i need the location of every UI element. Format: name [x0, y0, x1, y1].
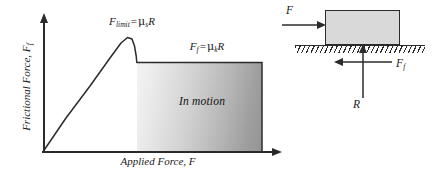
- f-kinetic-equals: =: [199, 40, 207, 52]
- friction-force-label: Ff: [396, 57, 405, 71]
- applied-force-arrowhead: [317, 21, 326, 29]
- friction-force-symbol: F: [396, 57, 403, 69]
- in-motion-label: In motion: [152, 95, 252, 107]
- y-axis-label: Frictional Force, Ff: [20, 22, 34, 152]
- reaction-force-arrowhead: [359, 44, 367, 53]
- f-limit-reaction: R: [148, 15, 155, 27]
- friction-force-arrowhead: [334, 58, 343, 66]
- y-axis-label-text: Frictional Force, F: [20, 45, 32, 130]
- free-body-diagram-panel: F Ff R: [280, 0, 433, 177]
- x-axis-label: Applied Force, F: [88, 155, 228, 167]
- f-kinetic-reaction: R: [218, 40, 225, 52]
- f-limit-equation: Flimit=μsR: [77, 15, 187, 29]
- friction-graph-panel: In motion Flimit=μsR Ff=μkR Applied Forc…: [0, 0, 290, 177]
- f-kinetic-equation: Ff=μkR: [152, 40, 262, 54]
- force-arrows: [280, 0, 433, 177]
- friction-force-subscript: f: [403, 62, 405, 71]
- f-limit-symbol: F: [109, 15, 116, 27]
- reaction-force-label: R: [353, 98, 360, 110]
- f-limit-subscript: limit: [116, 20, 130, 29]
- f-limit-equals: =: [130, 15, 138, 27]
- friction-figure: In motion Flimit=μsR Ff=μkR Applied Forc…: [0, 0, 433, 177]
- applied-force-label: F: [286, 4, 293, 16]
- mu-kinetic-symbol: μ: [207, 40, 214, 53]
